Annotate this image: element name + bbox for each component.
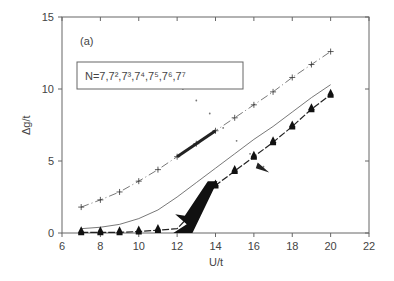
x-axis-label: U/t [209,256,223,268]
x-tick-label: 12 [171,240,183,252]
x-tick-label: 14 [209,240,221,252]
axis-ticks: 6810121416182022051015 [42,11,375,252]
plot-frame [62,17,369,233]
x-tick-label: 10 [133,240,145,252]
y-axis-label: Δg/t [20,115,32,135]
x-tick-label: 22 [363,240,375,252]
x-tick-label: 8 [97,240,103,252]
x-tick-label: 20 [325,240,337,252]
series-2 [78,89,333,236]
y-tick-label: 5 [48,155,54,167]
y-tick-label: 10 [42,83,54,95]
series-1 [81,85,330,229]
x-tick-label: 6 [59,240,65,252]
x-tick-label: 18 [286,240,298,252]
y-tick-label: 0 [48,227,54,239]
chart: 6810121416182022051015 N=7,7²,7³,7⁴,7⁵,7… [0,0,394,281]
panel-label: (a) [80,35,93,47]
legend-text: N=7,7²,7³,7⁴,7⁵,7⁶,7⁷ [85,70,186,82]
x-tick-label: 16 [248,240,260,252]
y-tick-label: 15 [42,11,54,23]
series-3 [182,88,269,172]
